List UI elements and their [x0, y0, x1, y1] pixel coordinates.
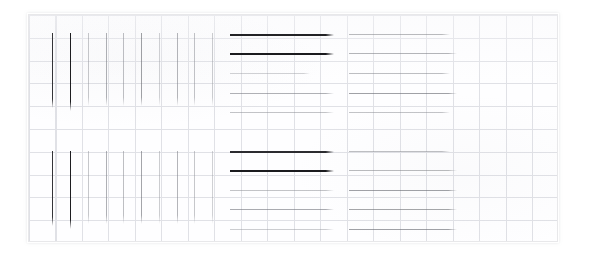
chart-frame [28, 14, 558, 242]
mark-group-lower-horizontal-rules-right [29, 15, 557, 241]
horizontal-rule-mark [349, 170, 457, 171]
horizontal-rule-mark [349, 151, 450, 152]
horizontal-rule-mark [349, 190, 457, 191]
horizontal-rule-mark [349, 229, 457, 230]
scanned-test-chart-page [0, 0, 589, 258]
horizontal-rule-mark [349, 209, 457, 210]
